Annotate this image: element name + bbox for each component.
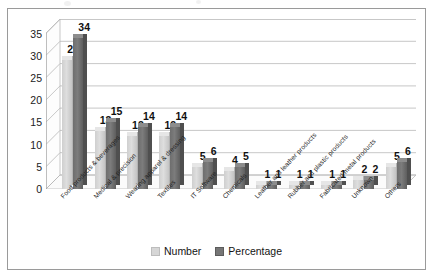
legend-item-percentage[interactable]: Percentage — [215, 245, 282, 257]
bar-face — [73, 38, 83, 189]
chart-legend: NumberPercentage — [8, 245, 425, 257]
bar-top — [203, 158, 213, 162]
bar-top — [138, 123, 148, 127]
y-axis-tick-25: 25 — [16, 73, 42, 83]
bar-face — [62, 60, 72, 189]
bar-side — [374, 176, 378, 185]
bar-value-label: 14 — [139, 110, 159, 122]
bar-side — [277, 181, 281, 185]
bar-side — [310, 181, 314, 185]
bar-value-label: 14 — [171, 110, 191, 122]
bar-top — [73, 34, 83, 38]
y-axis-tick-0: 0 — [16, 184, 42, 194]
x-axis-labels: Food products & beveragesMedical & preci… — [46, 191, 426, 253]
bar-top — [397, 158, 407, 162]
bar-top — [235, 163, 245, 167]
bar-top — [127, 132, 137, 136]
bar-top — [106, 118, 116, 122]
bar-top — [159, 132, 169, 136]
scan-artifact — [196, 0, 201, 4]
chart-frame: 05101520253035 — [7, 8, 426, 270]
bar-top — [95, 127, 105, 131]
bars-layer: 293413151214121456451111112256 — [46, 19, 416, 189]
scan-artifact — [64, 1, 71, 6]
legend-swatch-icon — [215, 247, 224, 256]
bar-value-label: 15 — [107, 105, 127, 117]
y-axis-tick-10: 10 — [16, 140, 42, 150]
bar-value-label: 34 — [74, 21, 94, 33]
y-axis: 05101520253035 — [12, 19, 42, 189]
y-axis-tick-20: 20 — [16, 95, 42, 105]
bar-top — [62, 56, 72, 60]
bar-value-label: 6 — [398, 145, 418, 157]
bar-top — [386, 163, 396, 167]
bar-side — [83, 34, 87, 185]
bar-top — [224, 167, 234, 171]
bar-percentage-0 — [73, 38, 83, 189]
legend-label: Number — [164, 245, 201, 257]
bar-top — [192, 163, 202, 167]
y-axis-tick-35: 35 — [16, 29, 42, 39]
bar-side — [180, 123, 184, 185]
y-axis-tick-30: 30 — [16, 51, 42, 61]
legend-item-number[interactable]: Number — [151, 245, 201, 257]
bar-top — [170, 123, 180, 127]
legend-swatch-icon — [151, 247, 160, 256]
y-axis-tick-5: 5 — [16, 162, 42, 172]
legend-label: Percentage — [228, 245, 282, 257]
bar-value-label: 5 — [236, 150, 256, 162]
bar-side — [342, 181, 346, 185]
bar-top — [353, 176, 363, 180]
bar-value-label: 6 — [204, 145, 224, 157]
bar-number-0 — [62, 60, 72, 189]
y-axis-tick-15: 15 — [16, 117, 42, 127]
bar-side — [407, 158, 411, 185]
